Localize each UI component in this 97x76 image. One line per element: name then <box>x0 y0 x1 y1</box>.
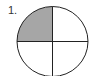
shaded-quadrant-top-left <box>17 7 53 42</box>
fraction-circle-diagram <box>0 0 97 76</box>
